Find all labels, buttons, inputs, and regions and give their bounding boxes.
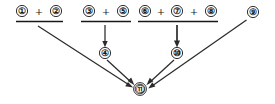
node-label: ⑪ [136,84,145,94]
plus-operator: + [35,6,43,17]
node-label: ② [52,6,60,16]
node-5[interactable]: ⑤ [117,5,128,16]
node-11[interactable]: ⑪ [134,83,147,96]
nodes: ① ② ③ ⑤ ⑥ ⑦ [16,5,258,95]
arrow-head [102,41,107,47]
node-label: ⑤ [119,6,127,16]
edges [38,20,247,88]
node-label: ⑧ [207,6,215,16]
edge-line [38,26,130,86]
edge-node10-to-node11 [146,60,174,85]
node-2[interactable]: ② [50,5,61,16]
node-6[interactable]: ⑥ [139,5,150,16]
edge-group2-to-node4 [102,25,107,47]
node-label: ⑥ [141,6,149,16]
node-9[interactable]: ⑨ [247,6,258,17]
plus-operator: + [190,6,198,17]
node-label: ③ [85,6,93,16]
edge-group1-to-node11 [38,26,133,88]
arrow-head [174,41,180,48]
node-8[interactable]: ⑧ [205,5,216,16]
node-label: ① [18,6,26,16]
edge-group3-to-node10 [174,25,180,47]
node-7[interactable]: ⑦ [171,5,182,16]
diagram-svg: + + + + ① ② ③ ⑤ [0,0,275,104]
node-1[interactable]: ① [16,5,27,16]
node-3[interactable]: ③ [83,5,94,16]
node-label: ⑩ [173,48,181,58]
plus-operator: + [102,6,110,17]
diagram-canvas: + + + + ① ② ③ ⑤ [0,0,275,104]
node-label: ⑦ [173,6,181,16]
node-10[interactable]: ⑩ [171,47,182,58]
edge-node9-to-node11 [148,20,246,88]
node-4[interactable]: ④ [99,47,110,58]
edge-line [152,20,247,86]
node-label: ⑨ [249,7,257,17]
node-label: ④ [101,48,109,58]
plus-operator: + [157,6,165,17]
